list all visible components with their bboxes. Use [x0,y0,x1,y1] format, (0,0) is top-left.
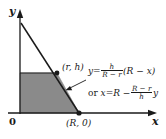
point-R-0-marker [76,110,81,115]
y-axis-label: y [9,6,15,17]
equation-secondary-first-term: R − [113,88,130,98]
equation-secondary-fraction: R − rh [131,85,152,101]
point-label-R-0: (R, 0) [66,119,91,128]
equation-secondary-numerator: R − r [131,85,152,93]
equation-secondary: or x=R −R − rhy [88,85,158,101]
y-axis-arrowhead [17,9,23,18]
equation-secondary-denominator: h [131,92,152,101]
equation-primary: y=hR − r(R − x) [88,63,155,79]
equation-primary-equals: = [93,66,101,76]
equation-secondary-prefix: or [88,88,98,98]
point-r-h-marker [55,71,60,76]
equation-secondary-rhs: y [153,88,158,98]
shaded-region [20,73,79,113]
equation-leader-arrowhead [66,86,73,90]
equation-primary-fraction: hR − r [101,63,122,79]
equation-primary-numerator: h [101,63,122,71]
x-axis-label: x [152,116,159,127]
origin-label: 0 [9,117,16,127]
equation-primary-rhs: (R − x) [123,66,155,76]
equation-primary-denominator: R − r [101,70,122,79]
point-label-r-h: (r, h) [62,63,84,72]
geometry-figure: y x 0 (r, h) (R, 0) y=hR − r(R − x) or x… [0,0,166,139]
